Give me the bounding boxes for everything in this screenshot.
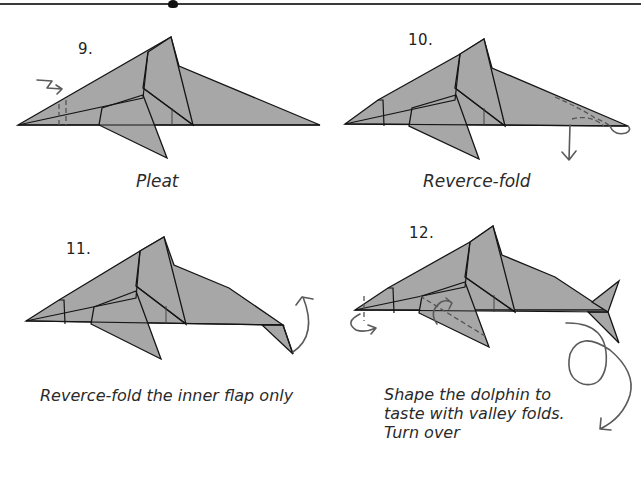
- step-11-caption: Reverce-fold the inner flap only: [40, 386, 293, 405]
- step-10-figure: [345, 39, 630, 160]
- step-11-number: 11.: [66, 240, 91, 258]
- step-12-caption-line-3: Turn over: [384, 423, 565, 442]
- step-9-number: 9.: [78, 40, 93, 58]
- step-10-caption: Reverce-fold: [423, 172, 531, 191]
- reverse-fold-up-arrow-icon: [293, 297, 313, 352]
- step-12-caption-line-2: taste with valley folds.: [384, 404, 565, 423]
- step-12-caption: Shape the dolphin to taste with valley f…: [384, 385, 565, 442]
- step-9-figure: [18, 37, 320, 158]
- turn-over-arrow-icon: [566, 323, 631, 430]
- step-9-caption: Pleat: [136, 172, 179, 191]
- step-12-number: 12.: [409, 224, 434, 242]
- pleat-arrow-icon: [37, 80, 62, 94]
- reverse-fold-arrow-icon: [562, 125, 576, 160]
- step-10-number: 10.: [408, 31, 433, 49]
- step-12-caption-line-1: Shape the dolphin to: [384, 385, 565, 404]
